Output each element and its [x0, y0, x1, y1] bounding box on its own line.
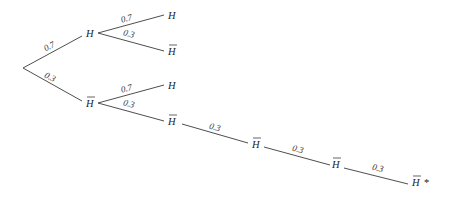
node-n1a: H: [167, 10, 177, 21]
node-n5: H *: [411, 176, 429, 188]
prob-root-n2: 0.3: [43, 70, 58, 84]
svg-text:H: H: [167, 10, 177, 21]
prob-n2-n2a: 0.7: [120, 82, 134, 95]
svg-text:H: H: [167, 80, 177, 91]
prob-n1-n1b: 0.3: [122, 27, 136, 40]
asterisk-marker: *: [424, 177, 429, 188]
prob-n2-n2b: 0.3: [122, 97, 136, 110]
probability-tree: 0.7 0.3 0.7 0.3 0.7 0.3 0.3 0.3 0.3 H H …: [0, 0, 450, 197]
prob-n2b-n3: 0.3: [208, 121, 222, 134]
node-n2b: H: [167, 115, 177, 127]
svg-text:H: H: [167, 116, 177, 127]
svg-text:H: H: [411, 177, 421, 188]
svg-text:H: H: [331, 159, 341, 170]
svg-text:H: H: [85, 98, 95, 109]
node-n3: H: [251, 138, 261, 150]
prob-n4-n5: 0.3: [371, 162, 385, 175]
svg-text:H: H: [251, 139, 261, 150]
node-n2: H: [85, 97, 95, 109]
prob-n3-n4: 0.3: [291, 143, 305, 156]
node-n2a: H: [167, 80, 177, 91]
svg-text:H: H: [85, 28, 95, 39]
svg-text:H: H: [167, 46, 177, 57]
node-n1b: H: [167, 45, 177, 57]
node-n4: H: [331, 158, 341, 170]
prob-n1-n1a: 0.7: [120, 12, 134, 25]
node-n1: H: [85, 28, 95, 39]
